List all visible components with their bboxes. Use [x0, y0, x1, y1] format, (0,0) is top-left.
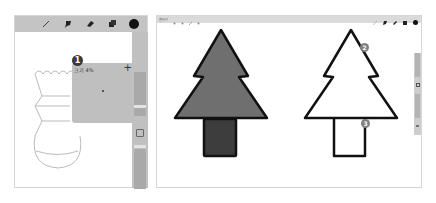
color-swatch[interactable]	[413, 10, 418, 29]
modify-button[interactable]	[416, 83, 420, 87]
brush-size-slider[interactable]	[415, 53, 420, 77]
selection-icon[interactable]	[189, 10, 192, 29]
left-sidebar	[132, 32, 148, 188]
eraser-icon[interactable]	[393, 10, 397, 29]
annotation-badge-3: 3	[361, 119, 370, 128]
ink-brush-icon[interactable]	[383, 10, 387, 29]
pencil-icon[interactable]	[373, 10, 377, 29]
opacity-thumb[interactable]	[134, 145, 146, 148]
left-toolbar	[15, 16, 147, 32]
pencil-icon[interactable]	[35, 16, 57, 32]
brush-size-thumb[interactable]	[134, 105, 146, 108]
transform-icon[interactable]	[197, 10, 200, 29]
right-toolbar: 갤러리	[157, 16, 421, 23]
ink-brush-icon[interactable]	[57, 16, 79, 32]
brush-preview-dot	[102, 90, 104, 92]
outline-tree-drawing	[301, 28, 401, 174]
annotation-badge-2: 2	[360, 43, 369, 52]
opacity-slider[interactable]	[415, 94, 420, 118]
brush-size-label: 크기 4%	[74, 66, 94, 73]
add-icon[interactable]: +	[124, 62, 132, 73]
filled-tree-drawing	[171, 28, 271, 174]
right-canvas-screen: 갤러리 2 3	[156, 15, 422, 188]
color-swatch[interactable]	[123, 16, 145, 32]
annotation-badge-1: 1	[72, 55, 83, 66]
eraser-icon[interactable]	[79, 16, 101, 32]
brush-size-slider[interactable]	[134, 72, 146, 116]
right-sidebar	[414, 53, 421, 135]
opacity-slider[interactable]	[134, 149, 146, 189]
left-canvas-screen: 크기 4% + 1	[14, 15, 148, 188]
brush-size-popup[interactable]: 크기 4% +	[72, 63, 134, 123]
magic-wand-icon[interactable]	[181, 10, 184, 29]
modify-button[interactable]	[136, 129, 144, 137]
gallery-button[interactable]: 갤러리	[159, 18, 168, 22]
layers-icon[interactable]	[101, 16, 123, 32]
wrench-icon[interactable]	[173, 10, 176, 29]
undo-icon[interactable]	[416, 125, 419, 127]
layers-icon[interactable]	[403, 10, 407, 29]
